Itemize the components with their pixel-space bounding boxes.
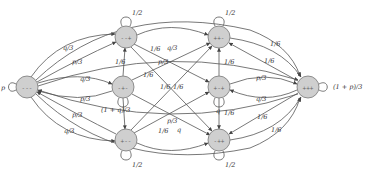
node-n7: +++: [297, 76, 319, 98]
node-n1: --+: [115, 26, 137, 48]
edge-label: q/3: [256, 95, 267, 103]
self-loop-n1: [121, 17, 131, 26]
edge-label: q/3: [80, 75, 91, 83]
edge-label: 1/6: [257, 113, 267, 121]
node-label: --+: [121, 34, 132, 41]
node-label: ++-: [214, 34, 225, 41]
edge-label: p/3: [72, 58, 83, 66]
edge-label: q/3: [63, 44, 74, 52]
edge-label: q/3: [64, 127, 75, 135]
self-loop-label-n1: 1/2: [132, 9, 142, 17]
edge-label: 1/6: [271, 126, 281, 134]
markov-chain-diagram: --- --+ -+- +-- ++- +-+ -++ +++ p 1/2 (1…: [0, 0, 369, 178]
node-n3: +--: [115, 129, 137, 151]
node-label: ---: [22, 84, 33, 91]
self-loop-label-n2: (1 + q)/3: [101, 106, 130, 114]
node-n0: ---: [16, 76, 38, 98]
edge-n2-n6: [132, 94, 210, 135]
node-n2: -+-: [112, 76, 134, 98]
node-label: +--: [121, 137, 132, 144]
node-n4: ++-: [208, 26, 230, 48]
edge-label: 1/6: [173, 83, 183, 91]
self-loop-label-n4: 1/2: [225, 9, 235, 17]
edge-label: 1/6: [158, 127, 168, 135]
edge-n3-n6-arc: [137, 143, 208, 151]
edge-label: p/3: [256, 74, 267, 82]
edge-label: 1/6: [270, 40, 280, 48]
edge-label: 1/6: [160, 83, 170, 91]
edge-label: 1/6: [150, 45, 160, 53]
edge-n2-n0-bottom: [38, 91, 112, 98]
edge-label: q: [177, 126, 181, 134]
self-loop-label-n0: p: [1, 84, 6, 92]
node-n5: +-+: [208, 76, 230, 98]
edge-label: 1/6: [264, 57, 274, 65]
node-label: +++: [303, 84, 314, 91]
node-label: -++: [214, 137, 225, 144]
self-loop-n3: [121, 151, 131, 160]
edge-n3-n5: [134, 92, 209, 133]
node-label: +-+: [214, 84, 225, 91]
edge-label: p/3: [80, 95, 91, 103]
edge-label: p/3: [167, 117, 178, 125]
self-loop-n7: [319, 83, 327, 91]
self-loop-label-n3: 1/2: [132, 161, 142, 169]
edge-label: 1/6: [224, 58, 234, 66]
edge-label: 1/6: [143, 71, 153, 79]
edge-label: 1/6: [224, 109, 234, 117]
node-n6: -++: [208, 129, 230, 151]
edge-n0-n2-top: [38, 77, 112, 84]
self-loop-label-n6: 1/2: [225, 161, 235, 169]
self-loop-label-n7: (1 + p)/3: [333, 83, 362, 91]
edge-label: p/3: [158, 58, 169, 66]
edge-label: q/3: [167, 44, 178, 52]
self-loop-label-n5: q: [216, 107, 220, 115]
edge-n0-n1-outer: [31, 34, 115, 77]
edge-label: p/3: [72, 111, 83, 119]
edge-n1-n4-arc: [137, 28, 208, 36]
node-label: -+-: [118, 84, 129, 91]
edge-label: 1/6: [115, 58, 125, 66]
self-loop-n0: [9, 83, 17, 91]
